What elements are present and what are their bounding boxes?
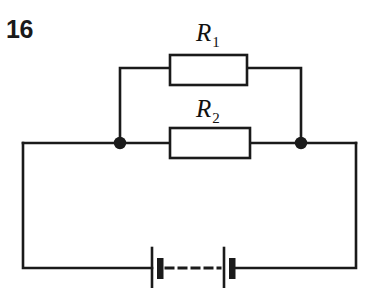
wire-outer-left-to-battery	[23, 143, 152, 268]
battery-cell1-short-plate	[157, 258, 164, 279]
wire-r1-to-right-branch	[247, 68, 301, 143]
circuit-schematic	[0, 0, 373, 288]
wire-left-branch-to-r1	[120, 68, 170, 143]
junction-dot-left	[114, 137, 126, 149]
resistor-2-box	[170, 128, 250, 158]
wire-outer-right-to-battery	[232, 143, 356, 268]
resistor-1-box	[170, 55, 247, 85]
battery-cell2-short-plate	[229, 258, 236, 279]
junction-dot-right	[295, 137, 307, 149]
circuit-figure: 16 R1 R2	[0, 0, 373, 288]
